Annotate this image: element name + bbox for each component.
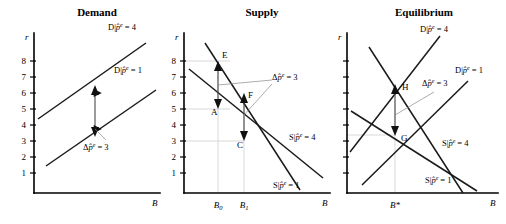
point-label-c: C [237,140,243,150]
x-axis-label-demand: B [152,198,158,208]
y-tick-label: 4 [172,120,177,130]
y-tick-label: 6 [22,88,27,98]
y-tick-label: 6 [172,88,177,98]
y-tick-label: 5 [172,104,177,114]
point-label-a: A [211,107,218,117]
panel-title-demand: Demand [77,6,117,18]
point-label-g: G [401,133,408,143]
figure-container: Demand r B 8 7 6 5 4 3 2 1 [0,0,506,224]
y-tick-label: 2 [172,152,177,162]
x-axis-label-equilibrium: B [490,198,496,208]
y-tick-label: 7 [22,72,27,82]
x-tick-label-bstar: B* [390,200,400,210]
y-axis-label-demand: r [25,32,29,42]
y-tick-label: 1 [22,168,27,178]
point-label-e: E [222,50,228,60]
y-tick-label: 8 [22,56,27,66]
y-tick-label: 3 [172,136,177,146]
x-axis-label-supply: B [322,198,328,208]
point-label-h: H [402,82,409,92]
panel-title-supply: Supply [245,6,279,18]
y-axis-label-supply: r [175,32,179,42]
y-tick-label: 3 [22,136,27,146]
y-axis-label-equilibrium: r [338,32,342,42]
y-tick-label: 1 [172,168,177,178]
y-tick-label: 7 [172,72,177,82]
y-tick-label: 4 [22,120,27,130]
point-label-f: F [248,90,253,100]
y-tick-label: 8 [172,56,177,66]
panel-title-equilibrium: Equilibrium [395,6,453,18]
y-tick-label: 2 [22,152,27,162]
y-tick-label: 5 [22,104,27,114]
